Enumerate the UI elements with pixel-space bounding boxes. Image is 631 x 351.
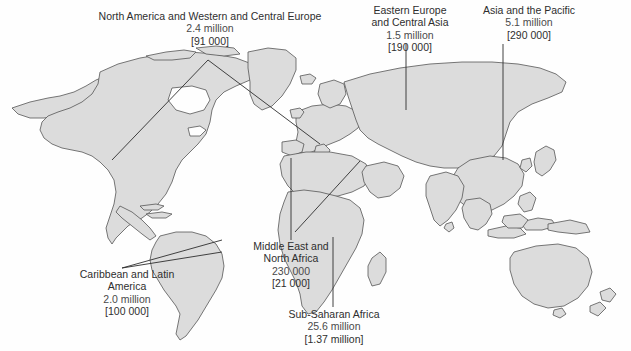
region-bracket-value: [290 000]: [466, 29, 592, 41]
world-map-figure: North America and Western and Central Eu…: [0, 0, 631, 351]
region-bracket-value: [1.37 million]: [248, 333, 420, 345]
region-label-eastern-europe-central-asia: Eastern Europe and Central Asia 1.5 mill…: [358, 4, 462, 54]
region-value: 1.5 million: [358, 29, 462, 41]
region-title-line-2: America: [54, 280, 200, 292]
region-label-caribbean-latin-america: Caribbean and Latin America 2.0 million …: [54, 268, 200, 318]
region-title-line-2: North Africa: [216, 252, 366, 264]
region-label-north-america-western-central-europe: North America and Western and Central Eu…: [80, 10, 340, 47]
region-bracket-value: [190 000]: [358, 41, 462, 53]
region-title-line-1: Caribbean and Latin: [54, 268, 200, 280]
region-title-line-1: Eastern Europe: [358, 4, 462, 16]
region-label-middle-east-north-africa: Middle East and North Africa 230 000 [21…: [216, 240, 366, 290]
region-bracket-value: [100 000]: [54, 305, 200, 317]
region-title-line-2: and Central Asia: [358, 16, 462, 28]
region-title: Sub-Saharan Africa: [248, 308, 420, 320]
region-bracket-value: [21 000]: [216, 277, 366, 289]
region-value: 2.4 million: [80, 22, 340, 34]
region-title: Asia and the Pacific: [466, 4, 592, 16]
region-value: 25.6 million: [248, 320, 420, 332]
region-title: North America and Western and Central Eu…: [80, 10, 340, 22]
region-title-line-1: Middle East and: [216, 240, 366, 252]
region-label-asia-and-the-pacific: Asia and the Pacific 5.1 million [290 00…: [466, 4, 592, 41]
region-value: 230 000: [216, 265, 366, 277]
region-label-sub-saharan-africa: Sub-Saharan Africa 25.6 million [1.37 mi…: [248, 308, 420, 345]
region-value: 5.1 million: [466, 16, 592, 28]
region-value: 2.0 million: [54, 293, 200, 305]
region-bracket-value: [91 000]: [80, 35, 340, 47]
